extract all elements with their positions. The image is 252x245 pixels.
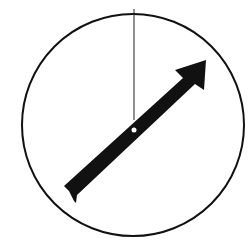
pivot-dot xyxy=(132,128,137,133)
diagram-canvas xyxy=(0,0,252,245)
dial-diagram xyxy=(0,0,252,245)
